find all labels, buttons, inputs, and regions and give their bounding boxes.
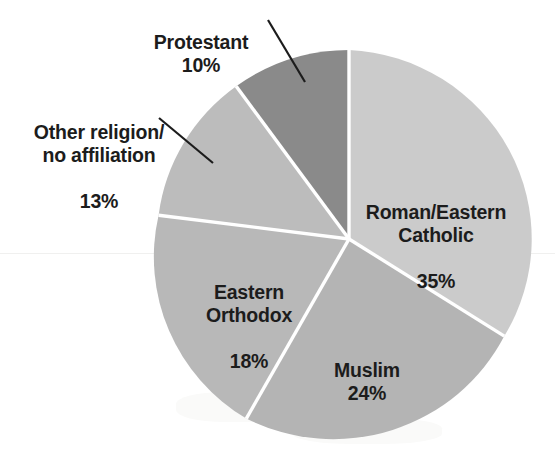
slice-label-orthodox-pct: 18% <box>178 350 320 373</box>
slice-label-protestant-pct: 10% <box>126 54 276 77</box>
slice-label-muslim-pct: 24% <box>302 382 432 405</box>
slice-label-orthodox-name-line1: Eastern <box>214 281 284 303</box>
slice-label-catholic: Roman/Eastern Catholic 35% <box>352 178 520 316</box>
slice-label-protestant: Protestant 10% <box>126 8 276 100</box>
slice-label-other-name-line2: no affiliation <box>6 144 192 167</box>
slice-label-muslim: Muslim 24% <box>302 336 432 428</box>
slice-label-catholic-name-line2: Catholic <box>352 224 520 247</box>
slice-label-other-name-line1: Other religion/ <box>34 121 164 143</box>
slice-label-muslim-name: Muslim <box>334 359 400 381</box>
pie-chart-figure: Protestant 10% Other religion/ no affili… <box>0 0 555 450</box>
slice-label-protestant-name: Protestant <box>154 31 248 53</box>
slice-label-orthodox: Eastern Orthodox 18% <box>178 258 320 396</box>
slice-label-orthodox-name-line2: Orthodox <box>178 304 320 327</box>
slice-label-catholic-name-line1: Roman/Eastern <box>366 201 506 223</box>
slice-label-catholic-pct: 35% <box>352 270 520 293</box>
slice-label-other-pct: 13% <box>6 190 192 213</box>
slice-label-other: Other religion/ no affiliation 13% <box>6 98 192 236</box>
